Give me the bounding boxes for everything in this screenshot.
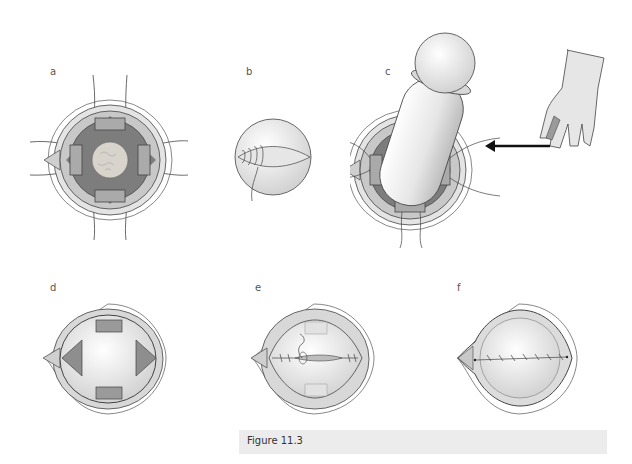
panel-label-e: e (255, 282, 261, 293)
panel-label-f: f (457, 282, 461, 293)
panel-a-eye-retractors-illustration (30, 70, 200, 245)
figure-caption-bar: Figure 11.3 (239, 430, 607, 454)
panel-c-inserted-device-illustration (350, 28, 620, 248)
panel-d-sutured-retractors-illustration (38, 300, 173, 422)
panel-b-sutured-sphere-illustration (230, 115, 315, 205)
panel-f-closed-eye-illustration (455, 300, 580, 422)
panel-label-d: d (50, 282, 56, 293)
figure-caption: Figure 11.3 (247, 435, 303, 446)
panel-e-closing-incision-illustration (250, 300, 378, 422)
panel-label-b: b (246, 66, 252, 77)
